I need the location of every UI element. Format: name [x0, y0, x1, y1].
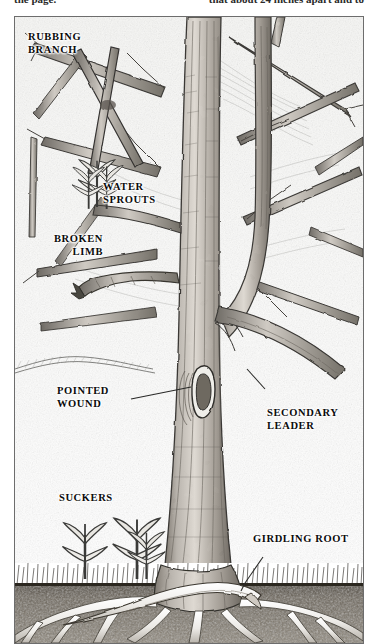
illustration-canvas: RUBBING BRANCH WATER SPROUTS BROKEN LIMB… — [15, 17, 363, 643]
illustration-frame: RUBBING BRANCH WATER SPROUTS BROKEN LIMB… — [14, 16, 364, 644]
label-broken-limb: BROKEN LIMB — [14, 233, 103, 258]
label-pointed-wound: POINTED WOUND — [57, 385, 109, 410]
tree-illustration — [15, 17, 363, 643]
label-water-sprouts: WATER SPROUTS — [103, 181, 156, 206]
cut-text-right: that about 24 inches apart and to — [209, 0, 364, 5]
label-rubbing-branch: RUBBING BRANCH — [28, 31, 81, 56]
label-secondary-leader: SECONDARY LEADER — [267, 407, 339, 432]
cut-text-left: the page. — [14, 0, 56, 5]
label-suckers: SUCKERS — [59, 492, 113, 505]
page-top-cut-text: the page. that about 24 inches apart and… — [0, 0, 376, 11]
label-girdling-root: GIRDLING ROOT — [253, 533, 349, 546]
